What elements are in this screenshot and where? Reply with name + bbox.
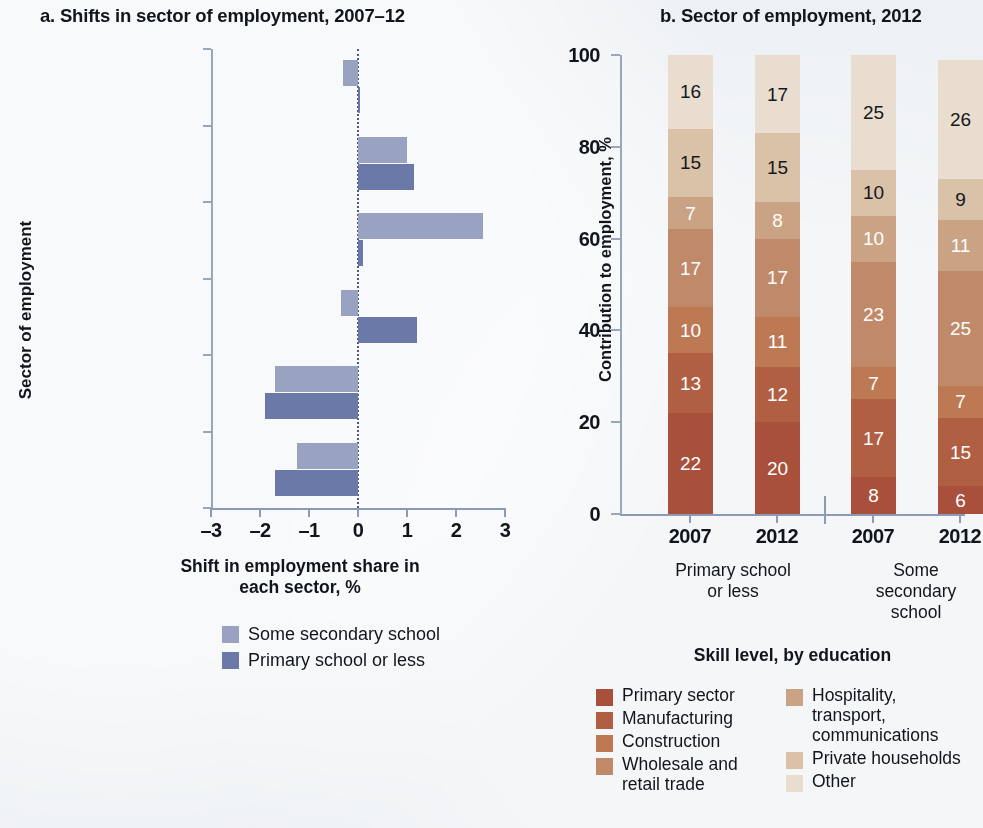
segment-value: 12: [767, 385, 788, 404]
legend-label: Primary school or less: [248, 650, 425, 671]
x-tick-label: 3: [500, 519, 511, 542]
bar-some-secondary: [343, 60, 358, 86]
legend-label: Some secondary school: [248, 624, 440, 645]
bar-some-secondary: [358, 213, 483, 239]
panel-b-x-axis-line: [620, 514, 965, 516]
segment-value: 17: [680, 259, 701, 278]
legend-item[interactable]: Primary sector: [596, 686, 786, 706]
segment-value: 10: [863, 229, 884, 248]
year-label: 2007: [852, 525, 895, 548]
bar-some-secondary: [358, 137, 407, 163]
stack-segment: 20: [755, 422, 800, 514]
bar-some-secondary: [297, 443, 358, 469]
panel-a-shifts-chart: a. Shifts in sector of employment, 2007–…: [0, 0, 560, 828]
segment-value: 8: [868, 486, 879, 505]
panel-a-y-axis-label: Sector of employment: [16, 200, 36, 420]
legend-item[interactable]: Primary school or less: [222, 650, 440, 671]
segment-value: 13: [680, 374, 701, 393]
stack-segment: 22: [668, 413, 713, 514]
stack-segment: 25: [851, 55, 896, 170]
legend-swatch: [596, 735, 613, 752]
stack-segment: 12: [755, 367, 800, 422]
legend-label: Manufacturing: [622, 709, 733, 729]
y-tick-label: 0: [589, 503, 600, 526]
stack-segment: 9: [938, 179, 983, 220]
segment-value: 17: [767, 268, 788, 287]
x-tick: [689, 514, 691, 523]
group-label: Some secondary school: [821, 560, 983, 623]
panel-b-legend-column-1: Primary sectorManufacturingConstructionW…: [596, 686, 786, 798]
legend-item[interactable]: Wholesale and retail trade: [596, 755, 786, 795]
x-tick: [357, 508, 359, 517]
legend-item[interactable]: Hospitality, transport, communications: [786, 686, 961, 746]
legend-item[interactable]: Private households: [786, 749, 961, 769]
segment-value: 25: [863, 103, 884, 122]
bar-primary-or-less: [358, 317, 417, 343]
legend-swatch: [786, 775, 803, 792]
stack-segment: 25: [938, 271, 983, 386]
segment-value: 10: [863, 183, 884, 202]
x-tick: [776, 514, 778, 523]
segment-value: 17: [863, 429, 884, 448]
x-tick: [455, 508, 457, 517]
legend-item[interactable]: Construction: [596, 732, 786, 752]
stacked-bar: 1715817111220: [755, 55, 800, 514]
legend-swatch: [596, 712, 613, 729]
year-label: 2012: [756, 525, 799, 548]
panel-b-x-axis-label: Skill level, by education: [620, 645, 965, 666]
x-tick-label: 1: [402, 519, 413, 542]
legend-item[interactable]: Manufacturing: [596, 709, 786, 729]
stack-segment: 15: [668, 129, 713, 198]
legend-label: Primary sector: [622, 686, 735, 706]
stack-segment: 23: [851, 262, 896, 368]
segment-value: 25: [950, 319, 971, 338]
stack-segment: 26: [938, 60, 983, 179]
y-tick: [203, 48, 211, 50]
x-tick: [210, 508, 212, 517]
segment-value: 6: [955, 491, 966, 510]
y-tick: [611, 54, 620, 56]
panel-a-title: a. Shifts in sector of employment, 2007–…: [40, 5, 405, 27]
stack-segment: 17: [755, 239, 800, 317]
stack-segment: 17: [851, 399, 896, 477]
legend-item[interactable]: Other: [786, 772, 961, 792]
stack-segment: 7: [851, 367, 896, 399]
panel-b-y-axis-line: [620, 55, 622, 514]
legend-swatch: [786, 752, 803, 769]
bar-some-secondary: [341, 290, 358, 316]
stack-segment: 7: [668, 197, 713, 229]
stack-segment: 11: [755, 317, 800, 367]
panel-b-plot-area: 020406080100 161571710132217158171112202…: [620, 55, 965, 514]
legend-swatch: [222, 626, 239, 643]
segment-value: 15: [950, 443, 971, 462]
y-tick-label: 60: [579, 227, 600, 250]
x-tick: [872, 514, 874, 523]
legend-swatch: [222, 652, 239, 669]
segment-value: 9: [955, 190, 966, 209]
legend-label: Hospitality, transport, communications: [812, 686, 938, 746]
segment-value: 22: [680, 454, 701, 473]
legend-swatch: [596, 689, 613, 706]
bar-primary-or-less: [358, 240, 363, 266]
y-tick-label: 80: [579, 135, 600, 158]
stacked-bar: 251010237178: [851, 55, 896, 514]
stack-segment: 10: [851, 216, 896, 262]
y-tick: [611, 329, 620, 331]
y-tick-label: 20: [579, 411, 600, 434]
segment-value: 7: [955, 392, 966, 411]
group-label: Primary school or less: [638, 560, 828, 602]
legend-swatch: [786, 689, 803, 706]
bar-some-secondary: [275, 366, 358, 392]
legend-item[interactable]: Some secondary school: [222, 624, 440, 645]
stack-segment: 8: [851, 477, 896, 514]
y-tick: [611, 513, 620, 515]
year-label: 2012: [939, 525, 982, 548]
legend-swatch: [596, 758, 613, 775]
panel-b-title: b. Sector of employment, 2012: [660, 5, 922, 27]
legend-label: Construction: [622, 732, 720, 752]
panel-a-y-axis-line: [211, 49, 213, 508]
y-tick-label: 100: [568, 44, 600, 67]
panel-b-y-axis-label: Contribution to employment, %: [596, 130, 615, 390]
y-tick: [203, 125, 211, 127]
segment-value: 11: [768, 332, 788, 351]
